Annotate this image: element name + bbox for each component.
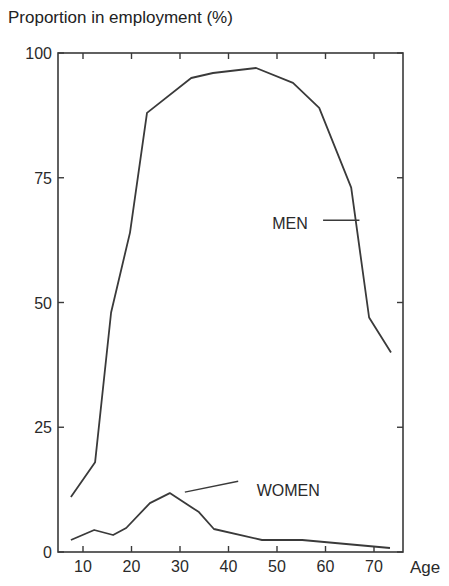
y-tick-label: 25 [34,419,52,436]
x-tick-label: 60 [317,558,335,575]
x-tick-label: 70 [365,558,383,575]
x-axis: 10203040506070 [74,53,383,575]
x-tick-label: 40 [220,558,238,575]
series-label-men: MEN [272,215,308,232]
series-line-men [71,68,391,497]
y-tick-label: 0 [43,544,52,561]
leader-line-women [185,481,238,492]
plot-border [58,53,403,552]
series-labels: MENWOMEN [185,215,360,499]
x-tick-label: 20 [123,558,141,575]
x-tick-label: 10 [74,558,92,575]
x-tick-label: 30 [171,558,189,575]
series-label-women: WOMEN [257,482,320,499]
x-tick-label: 50 [268,558,286,575]
y-tick-label: 50 [34,295,52,312]
y-tick-label: 100 [25,45,52,62]
employment-line-chart: 0255075100 10203040506070 MENWOMEN Age [0,0,449,586]
y-tick-label: 75 [34,170,52,187]
x-axis-title: Age [410,558,440,577]
y-axis: 0255075100 [25,45,403,561]
plot-frame [58,53,403,552]
series-line-women [71,493,390,548]
series-lines [71,68,391,548]
